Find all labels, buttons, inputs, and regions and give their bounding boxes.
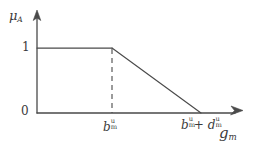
y-axis-label: μA <box>9 9 22 22</box>
x-axis <box>37 106 243 115</box>
figure-canvas: μA 1 0 bum bum+dum gm <box>0 0 256 151</box>
x-tick-label-b: bum <box>103 121 111 133</box>
y-tick-label-one: 1 <box>22 41 30 53</box>
y-axis <box>33 10 41 113</box>
x-axis-label: gm <box>219 126 237 141</box>
x-tick-label-b-plus-d: bum+dum <box>181 119 215 131</box>
membership-curve <box>37 48 201 113</box>
y-tick-label-zero: 0 <box>21 105 29 117</box>
